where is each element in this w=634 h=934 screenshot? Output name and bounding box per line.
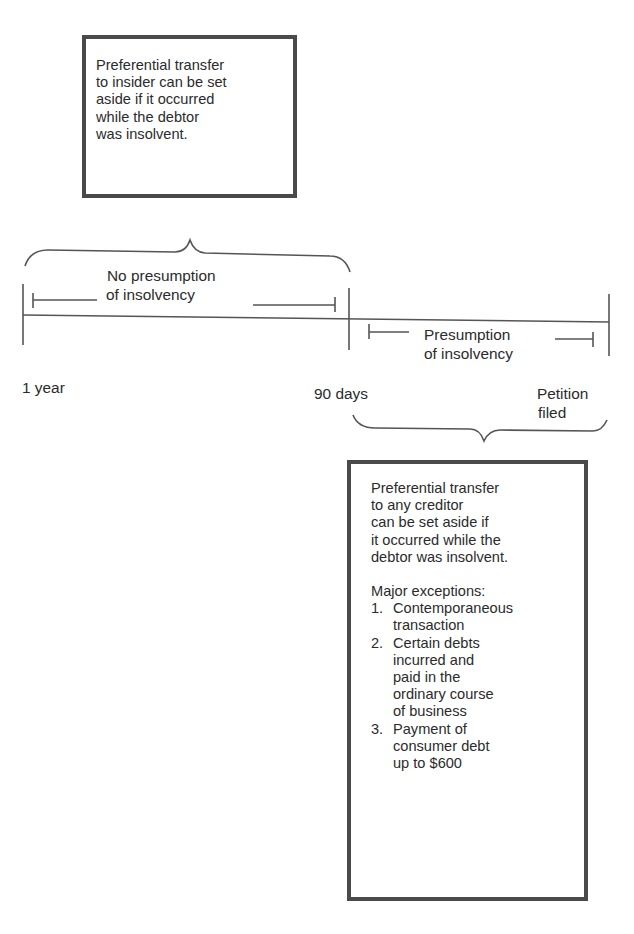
no-presumption-label: No presumption of insolvency xyxy=(107,266,216,304)
creditor-transfer-box: Preferential transfer to any creditor ca… xyxy=(347,460,588,901)
marker-label-petition-filed: Petition filed xyxy=(537,384,588,422)
insider-box-line: to insider can be set xyxy=(96,74,283,91)
creditor-box-line: can be set aside if xyxy=(371,514,574,531)
petition-label-line: Petition xyxy=(537,384,588,403)
exception-text: of business xyxy=(393,703,494,720)
insider-box-line: aside if it occurred xyxy=(96,91,283,108)
insider-box-line: while the debtor xyxy=(96,109,283,126)
creditor-box-line: it occurred while the xyxy=(371,532,574,549)
no-presumption-label-line: No presumption xyxy=(107,266,216,285)
exception-item: 2. Certain debts incurred and paid in th… xyxy=(371,635,574,721)
marker-label-1-year: 1 year xyxy=(22,378,65,397)
presumption-label-line: Presumption xyxy=(424,325,510,344)
exception-text: consumer debt xyxy=(393,738,490,755)
no-presumption-label-line: of insolvency xyxy=(106,285,216,304)
insider-box-line: Preferential transfer xyxy=(96,57,283,74)
presumption-label: Presumption xyxy=(424,325,510,344)
exception-text: paid in the xyxy=(393,669,494,686)
exception-item: 1. Contemporaneous transaction xyxy=(371,600,574,634)
exception-text: incurred and xyxy=(393,652,494,669)
exception-text: Payment of xyxy=(393,721,490,738)
exception-number: 2. xyxy=(371,635,393,721)
exception-number: 1. xyxy=(371,600,393,634)
exception-text: Contemporaneous xyxy=(393,600,513,617)
exception-text: up to $600 xyxy=(393,755,490,772)
creditor-box-line: to any creditor xyxy=(371,497,574,514)
marker-label-90-days: 90 days xyxy=(314,384,368,403)
exception-number: 3. xyxy=(371,721,393,773)
creditor-box-line: debtor was insolvent. xyxy=(371,549,574,566)
exception-item: 3. Payment of consumer debt up to $600 xyxy=(371,721,574,773)
exception-text: transaction xyxy=(393,617,513,634)
insider-transfer-box: Preferential transfer to insider can be … xyxy=(82,35,297,198)
petition-label-line: filed xyxy=(538,403,588,422)
creditor-box-line: Preferential transfer xyxy=(371,480,574,497)
exception-text: Certain debts xyxy=(393,635,494,652)
timeline-axis xyxy=(23,315,609,322)
presumption-label-line: of insolvency xyxy=(424,344,513,363)
insider-box-line: was insolvent. xyxy=(96,126,283,143)
exceptions-heading: Major exceptions: xyxy=(371,583,574,600)
exception-text: ordinary course xyxy=(393,686,494,703)
presumption-label-2: of insolvency xyxy=(424,344,513,363)
